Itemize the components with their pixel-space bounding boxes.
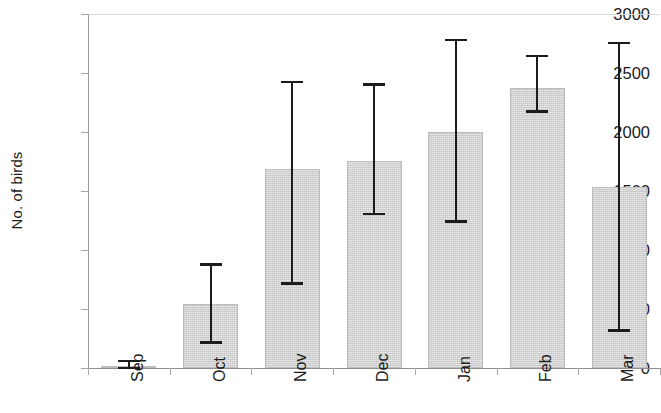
x-tick-label-oct: Oct	[198, 380, 224, 413]
error-bar-cap-upper-mar	[608, 42, 630, 45]
x-tick-label-text: Nov	[292, 354, 310, 382]
error-bar-cap-upper-feb	[526, 55, 548, 58]
error-bar-cap-lower-nov	[281, 282, 303, 285]
error-bar-cap-lower-oct	[200, 341, 222, 344]
x-tick-label-jan: Jan	[443, 380, 469, 413]
x-tick-mark	[251, 368, 252, 375]
x-tick-label-feb: Feb	[524, 380, 550, 413]
y-axis-title-label: No. of birds	[9, 151, 26, 229]
error-bar-cap-lower-mar	[608, 329, 630, 332]
x-tick-mark	[415, 368, 416, 375]
error-bar-cap-upper-dec	[363, 83, 385, 86]
x-tick-label-nov: Nov	[279, 380, 305, 413]
y-tick-mark	[81, 132, 88, 133]
error-bar-line-dec	[373, 84, 375, 214]
bar-chart: No. of birds 050010001500200025003000 Se…	[0, 0, 661, 413]
error-bar-cap-upper-oct	[200, 263, 222, 266]
x-tick-label-dec: Dec	[361, 380, 387, 413]
error-bar-line-nov	[291, 82, 293, 284]
error-bar-cap-lower-jan	[445, 220, 467, 223]
y-tick-mark	[81, 191, 88, 192]
x-tick-label-text: Dec	[374, 354, 392, 382]
y-tick-mark	[81, 309, 88, 310]
error-bar-line-jan	[455, 40, 457, 222]
x-tick-mark	[578, 368, 579, 375]
x-tick-label-text: Feb	[537, 354, 555, 382]
error-bar-cap-lower-feb	[526, 110, 548, 113]
x-tick-label-text: Sep	[129, 354, 147, 382]
x-tick-label-mar: Mar	[606, 380, 632, 413]
error-bar-cap-upper-nov	[281, 81, 303, 84]
x-tick-label-text: Mar	[619, 354, 637, 382]
error-bar-cap-upper-jan	[445, 39, 467, 42]
x-tick-mark	[497, 368, 498, 375]
x-tick-label-sep: Sep	[116, 380, 142, 413]
error-bar-cap-lower-dec	[363, 213, 385, 216]
y-axis-title: No. of birds	[0, 0, 34, 380]
y-tick-mark	[81, 368, 88, 369]
bar-feb	[510, 88, 565, 368]
error-bar-line-feb	[536, 56, 538, 111]
y-tick-mark	[81, 73, 88, 74]
error-bar-line-mar	[618, 43, 620, 330]
y-tick-mark	[81, 250, 88, 251]
error-bar-line-oct	[210, 265, 212, 343]
x-tick-mark	[333, 368, 334, 375]
x-tick-mark	[170, 368, 171, 375]
x-tick-label-text: Oct	[211, 357, 229, 382]
x-tick-mark	[88, 368, 89, 375]
x-tick-label-text: Jan	[456, 356, 474, 382]
y-tick-mark	[81, 14, 88, 15]
